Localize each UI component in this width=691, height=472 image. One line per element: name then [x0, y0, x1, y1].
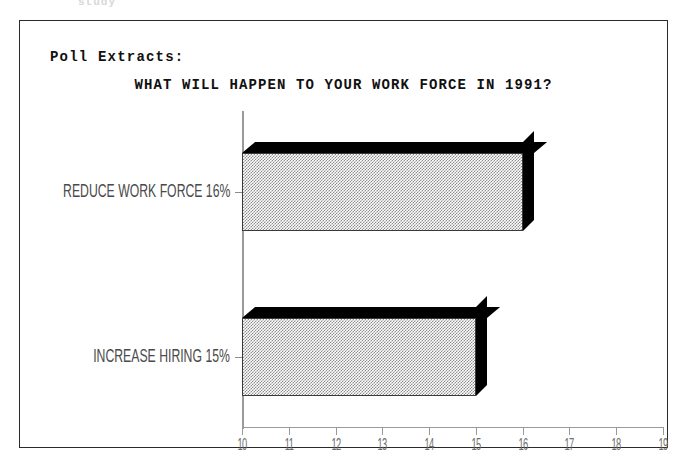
x-axis-tick-label: 13: [375, 435, 390, 452]
category-axis-line: [242, 427, 663, 428]
category-tick: [235, 357, 242, 358]
category-tick: [235, 192, 242, 193]
section-label: Poll Extracts:: [50, 49, 184, 65]
x-axis-tick-label: 16: [515, 435, 530, 452]
bar-side-bevel: [523, 131, 534, 231]
category-label: REDUCE WORK FORCE 16%: [0, 181, 230, 201]
x-axis-tick-label: 19: [656, 435, 671, 452]
bar-top-bevel: [242, 307, 500, 318]
x-axis-tick-label: 14: [422, 435, 437, 452]
category-label: INCREASE HIRING 15%: [0, 346, 230, 366]
x-axis-tick-label: 11: [282, 435, 296, 452]
chart-plot-area: 10111213141516171819 REDUCE WORK FORCE 1…: [242, 111, 663, 429]
chart-title: WHAT WILL HAPPEN TO YOUR WORK FORCE IN 1…: [20, 77, 667, 93]
poll-extract-frame: Poll Extracts: WHAT WILL HAPPEN TO YOUR …: [19, 20, 668, 448]
x-axis-tick-label: 15: [469, 435, 484, 452]
x-axis-tick-label: 17: [562, 435, 577, 452]
bar-top-bevel: [242, 142, 547, 153]
bar-face: [242, 318, 476, 396]
page-top-text-fragment: study: [78, 0, 198, 8]
bar-face: [242, 153, 523, 231]
x-axis-tick-label: 12: [328, 435, 343, 452]
bar-side-bevel: [476, 296, 487, 396]
x-axis-tick-label: 10: [235, 435, 250, 452]
x-axis-tick-label: 18: [609, 435, 624, 452]
